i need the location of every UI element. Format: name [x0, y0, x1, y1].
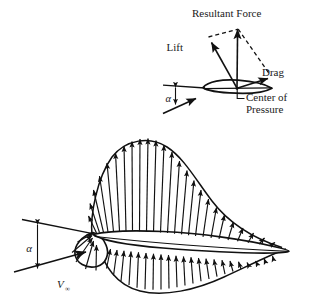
alpha-label: α: [26, 242, 32, 254]
freestream-velocity-subscript: ∞: [65, 285, 70, 293]
lower-surface-pressure-arrows: [107, 249, 274, 290]
resultant-force-vector: [237, 30, 238, 89]
pressure-distribution-diagram: [14, 139, 289, 294]
freestream-velocity-symbol: V: [57, 278, 65, 290]
chord-extension-line: [22, 220, 94, 234]
drag-label: Drag: [262, 66, 284, 78]
figure-root: α Resultant Force Lift Drag Center of Pr…: [0, 0, 312, 305]
upper-surface-pressure-arrows: [89, 139, 276, 246]
parallelogram-edge-lift: [209, 29, 239, 37]
lift-label: Lift: [167, 41, 184, 53]
center-of-pressure-label-line2: Pressure: [246, 103, 283, 115]
airfoil-pressure-figure: α Resultant Force Lift Drag Center of Pr…: [0, 0, 312, 305]
inset-alpha-label: α: [165, 93, 171, 104]
freestream-velocity-label: V ∞: [57, 278, 70, 293]
center-of-pressure-label-line1: Center of: [246, 91, 288, 103]
freestream-velocity-arrow: [14, 252, 86, 272]
inset-chord-extension: [163, 85, 205, 88]
resultant-force-label: Resultant Force: [192, 7, 261, 19]
